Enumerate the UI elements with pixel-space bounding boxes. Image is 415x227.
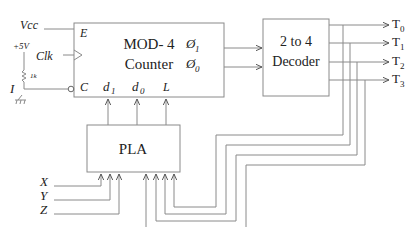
- decoder-block: 2 to 4 Decoder: [263, 19, 329, 96]
- input-i-label: I: [9, 81, 15, 96]
- t3-label: T 3: [392, 71, 405, 89]
- vcc-label: Vcc: [20, 18, 39, 32]
- input-y-label: Y: [40, 188, 49, 203]
- decoder-title-line2: Decoder: [272, 54, 320, 69]
- svg-text:T: T: [392, 71, 400, 86]
- svg-text:3: 3: [400, 79, 405, 89]
- x-input-wire: [54, 174, 101, 186]
- svg-text:2: 2: [400, 61, 405, 71]
- resistor-label: 1k: [30, 72, 38, 80]
- plus5v-label: +5V: [13, 41, 31, 51]
- svg-text:0: 0: [140, 86, 145, 96]
- svg-text:T: T: [392, 16, 400, 31]
- svg-text:0: 0: [400, 24, 405, 34]
- svg-text:d: d: [132, 79, 139, 94]
- left-inputs: Vcc Clk +5V 1k I: [9, 18, 74, 104]
- svg-text:1: 1: [195, 44, 200, 54]
- input-x-label: X: [39, 174, 49, 189]
- resistor-icon: [22, 70, 26, 82]
- svg-text:1: 1: [111, 86, 116, 96]
- decoder-outputs: T 0 T 1 T 2 T 3: [329, 16, 405, 89]
- pin-clear-label: C: [80, 80, 89, 94]
- counter-title-line2: Counter: [125, 56, 173, 72]
- input-z-label: Z: [40, 202, 48, 217]
- decoder-title-line1: 2 to 4: [280, 34, 312, 49]
- z-input-wire: [54, 174, 119, 214]
- t1-label: T 1: [392, 34, 405, 52]
- pin-load-label: L: [162, 80, 170, 94]
- ground-icon: [15, 95, 26, 104]
- svg-text:T: T: [392, 53, 400, 68]
- svg-text:T: T: [392, 34, 400, 49]
- counter-title-line1: MOD- 4: [123, 36, 175, 52]
- t0-label: T 0: [392, 16, 405, 34]
- y-input-wire: [54, 174, 110, 200]
- pla-block: PLA: [87, 125, 180, 172]
- pla-title: PLA: [119, 141, 148, 157]
- svg-text:d: d: [103, 79, 110, 94]
- t2-label: T 2: [392, 53, 405, 71]
- pin-enable-label: E: [79, 26, 88, 40]
- svg-text:0: 0: [195, 64, 200, 74]
- mod4-counter-block: MOD- 4 Counter E C d 1 d 0 L Ø 1 Ø 0: [68, 23, 224, 97]
- diagram-canvas: MOD- 4 Counter E C d 1 d 0 L Ø 1 Ø 0 Vcc…: [0, 0, 415, 227]
- pla-external-inputs: X Y Z: [39, 174, 119, 217]
- svg-text:1: 1: [400, 42, 405, 52]
- clk-label: Clk: [36, 49, 53, 63]
- inversion-bubble-icon: [68, 86, 74, 92]
